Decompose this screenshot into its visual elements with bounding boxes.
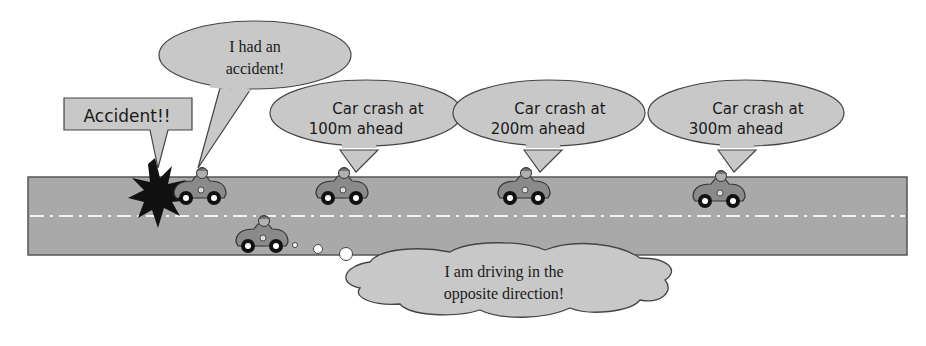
thought-cloud-line1: I am driving in the [444, 263, 563, 281]
bubble-100m-line1: Car crash at [332, 100, 423, 118]
scene-canvas: Accident!! I had an accident! Car crash … [0, 0, 926, 346]
bubble-200m-line1: Car crash at [514, 100, 605, 118]
bubble-100m-line2: 100m ahead [309, 120, 404, 138]
bubble-300m-line2: 300m ahead [689, 120, 784, 138]
opposite-car-thought-cloud: I am driving in the opposite direction! [346, 243, 672, 318]
accident-callout-text: Accident!! [83, 106, 170, 126]
crashed-car-bubble-line1: I had an [229, 38, 281, 55]
bubble-300m: Car crash at 300m ahead [648, 80, 844, 172]
accident-callout: Accident!! [64, 98, 192, 168]
bubble-100m: Car crash at 100m ahead [270, 80, 462, 172]
bubble-200m-line2: 200m ahead [491, 120, 586, 138]
crashed-car-bubble-line2: accident! [226, 60, 285, 77]
bubble-200m: Car crash at 200m ahead [453, 80, 645, 172]
bubble-300m-line1: Car crash at [712, 100, 803, 118]
thought-cloud-line2: opposite direction! [444, 285, 564, 303]
